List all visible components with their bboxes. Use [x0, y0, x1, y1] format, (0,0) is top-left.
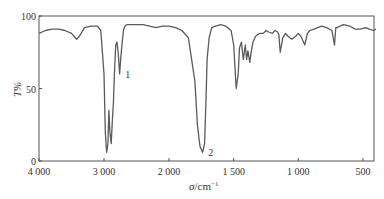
y-axis-title: T% [11, 82, 23, 97]
peak-label: 1 [125, 69, 130, 80]
x-tick-label: 1 000 [287, 166, 310, 177]
x-axis-title: σ/cm−1 [189, 180, 219, 192]
y-tick-label: 50 [26, 84, 36, 95]
spectrum-line [39, 25, 376, 153]
x-tick-label: 1 500 [222, 166, 245, 177]
y-tick-label: 100 [21, 11, 36, 22]
ir-spectrum-chart: 050100 4 0003 0002 0001 5001 000500 12 T… [0, 0, 384, 199]
x-tick-label: 2 000 [158, 166, 181, 177]
x-tick-label: 4 000 [28, 166, 51, 177]
x-tick-label: 500 [355, 166, 370, 177]
peak-label: 2 [208, 147, 213, 158]
x-tick-label: 3 000 [93, 166, 116, 177]
